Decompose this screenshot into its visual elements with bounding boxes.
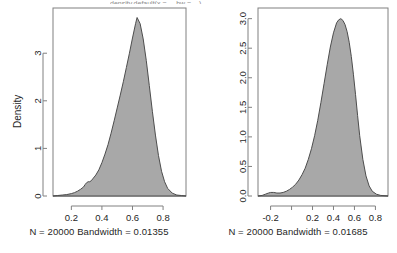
plot-canvas-left: 0.20.40.60.80123 bbox=[0, 0, 198, 226]
density-curve bbox=[53, 18, 186, 196]
y-tick-label: 2.5 bbox=[237, 42, 248, 55]
density-curve bbox=[258, 19, 388, 196]
y-tick-label: 3 bbox=[32, 51, 43, 56]
x-tick-label: -0.2 bbox=[262, 212, 278, 223]
x-tick-label: 0.8 bbox=[369, 212, 382, 223]
y-tick-label: 2.0 bbox=[237, 71, 248, 84]
y-tick-label: 1.0 bbox=[237, 130, 248, 143]
density-plot-left: Density 0.20.40.60.80123 N = 20000 Bandw… bbox=[0, 0, 198, 253]
density-plot-right: Density -0.20.20.40.60.80.00.51.01.52.02… bbox=[199, 0, 397, 253]
y-tick-label: 1 bbox=[32, 146, 43, 151]
x-tick-label: 0.4 bbox=[327, 212, 340, 223]
x-tick-label: 0.2 bbox=[306, 212, 319, 223]
x-tick-label: 0.4 bbox=[95, 212, 108, 223]
y-tick-label: 1.5 bbox=[237, 101, 248, 114]
plot-caption-left: N = 20000 Bandwidth = 0.01355 bbox=[0, 226, 198, 237]
x-tick-label: 0.6 bbox=[126, 212, 139, 223]
plot-canvas-right: -0.20.20.40.60.80.00.51.01.52.02.53.0 bbox=[199, 0, 397, 226]
y-tick-label: 0.5 bbox=[237, 160, 248, 173]
y-tick-label: 3.0 bbox=[237, 12, 248, 25]
plot-caption-right: N = 20000 Bandwidth = 0.01685 bbox=[199, 226, 397, 237]
x-tick-label: 0.2 bbox=[65, 212, 78, 223]
x-tick-label: 0.6 bbox=[348, 212, 361, 223]
x-tick-label: 0.8 bbox=[156, 212, 169, 223]
y-tick-label: 2 bbox=[32, 98, 43, 103]
y-tick-label: 0.0 bbox=[237, 189, 248, 202]
y-tick-label: 0 bbox=[32, 193, 43, 198]
